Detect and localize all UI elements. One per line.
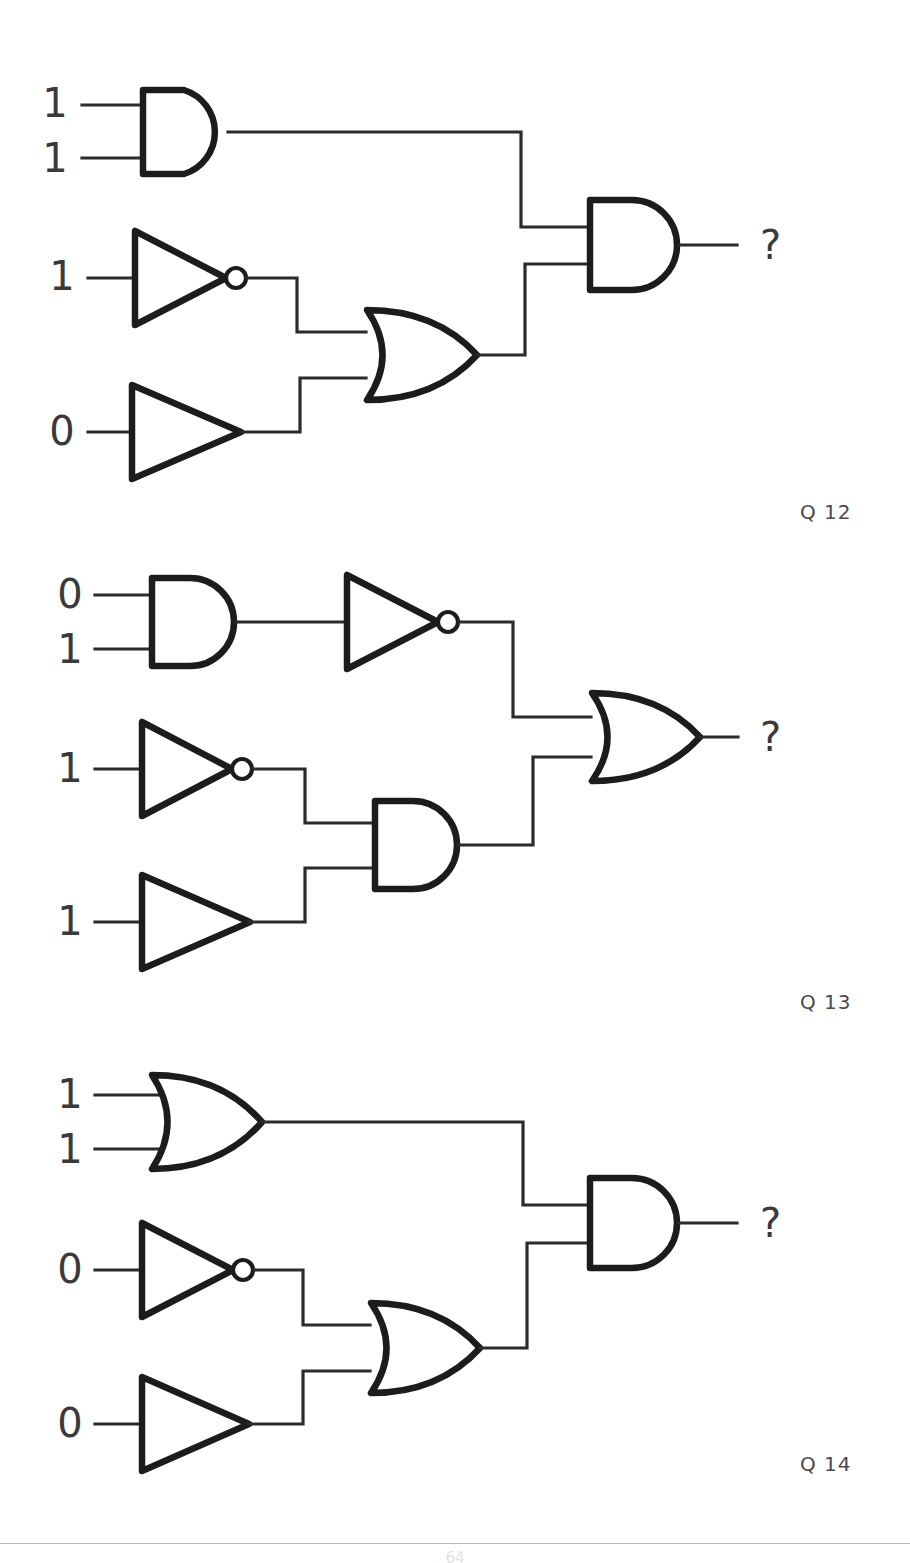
- wire-buffer-bottom-to-and-mid: [250, 868, 373, 922]
- input-label-c: 0: [57, 1246, 82, 1292]
- circuit-diagram-q12: 1 1 1 0: [0, 0, 910, 545]
- inverter-bubble-icon-mid: [226, 268, 246, 288]
- output-value-placeholder: ?: [760, 222, 781, 268]
- input-label-a: 0: [57, 571, 82, 617]
- input-label-c: 1: [57, 745, 82, 791]
- wire-not-mid-to-or-mid: [254, 1270, 370, 1325]
- or-gate-top: [152, 1075, 262, 1169]
- inverter-bubble-icon-top: [438, 612, 458, 632]
- wire-not-mid-to-or: [247, 278, 366, 332]
- wire-or-mid-to-output-and: [477, 264, 588, 355]
- wire-and-top-to-output-and: [228, 132, 588, 227]
- buffer-gate-bottom: [142, 1377, 249, 1471]
- input-label-b: 1: [57, 1126, 82, 1172]
- output-value-placeholder: ?: [760, 714, 781, 760]
- inverter-bubble-icon-mid: [232, 759, 252, 779]
- input-label-a: 1: [57, 1071, 82, 1117]
- input-label-d: 0: [57, 1400, 82, 1446]
- buffer-gate-bottom: [132, 385, 241, 479]
- not-gate-mid: [142, 722, 232, 816]
- not-gate-mid: [135, 231, 226, 325]
- and-gate-top: [143, 90, 215, 174]
- circuit-diagram-q13: 0 1 1 1: [0, 545, 910, 1035]
- and-gate-output: [590, 1178, 677, 1268]
- and-gate-top: [152, 578, 234, 666]
- wire-or-mid-to-output-and: [480, 1243, 588, 1348]
- wire-not-top-to-or-output: [459, 622, 591, 717]
- and-gate-mid: [375, 801, 457, 889]
- question-label-q13: Q 13: [800, 990, 852, 1014]
- input-label-b: 1: [42, 135, 67, 181]
- wire-buffer-bottom-to-or-mid: [249, 1371, 370, 1424]
- input-label-d: 1: [57, 898, 82, 944]
- input-label-d: 0: [49, 408, 74, 454]
- not-gate-top: [347, 575, 438, 669]
- input-label-c: 1: [49, 253, 74, 299]
- or-gate-mid: [371, 1303, 480, 1393]
- question-label-q14: Q 14: [800, 1452, 852, 1476]
- buffer-gate-bottom: [142, 875, 250, 969]
- worksheet-page: 1 1 1 0: [0, 0, 910, 1563]
- circuit-diagram-q14: 1 1 0 0: [0, 1035, 910, 1505]
- inverter-bubble-icon-mid: [233, 1260, 253, 1280]
- or-gate-output: [592, 693, 700, 781]
- output-value-placeholder: ?: [760, 1200, 781, 1246]
- footer-divider: [0, 1543, 910, 1544]
- wire-buffer-bottom-to-or: [241, 378, 366, 432]
- and-gate-output: [590, 200, 677, 290]
- not-gate-mid: [142, 1223, 233, 1317]
- wire-not-mid-to-and-mid: [253, 769, 373, 823]
- input-label-b: 1: [57, 626, 82, 672]
- question-label-q12: Q 12: [800, 500, 852, 524]
- page-number: 64: [0, 1549, 910, 1563]
- wire-or-top-to-output-and: [262, 1122, 588, 1205]
- or-gate-mid: [367, 310, 477, 400]
- wire-and-mid-to-or-output: [458, 757, 591, 845]
- input-label-a: 1: [42, 80, 67, 126]
